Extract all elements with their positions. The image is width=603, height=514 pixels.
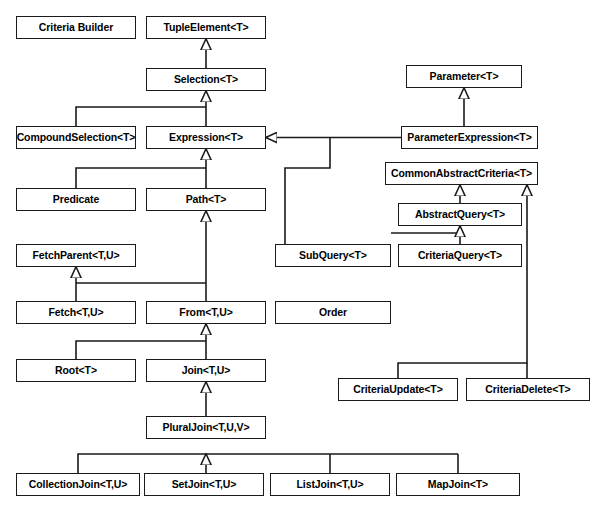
- node-plural-join[interactable]: PluralJoin<T,U,V>: [146, 416, 266, 439]
- node-set-join[interactable]: SetJoin<T,U>: [144, 473, 264, 496]
- node-common-abstract-criteria[interactable]: CommonAbstractCriteria<T>: [385, 162, 538, 185]
- node-abstract-query[interactable]: AbstractQuery<T>: [398, 203, 522, 226]
- node-parameter-expression[interactable]: ParameterExpression<T>: [401, 126, 538, 149]
- node-tuple-element[interactable]: TupleElement<T>: [146, 16, 266, 39]
- node-criteria-builder[interactable]: Criteria Builder: [16, 16, 136, 39]
- node-join[interactable]: Join<T,U>: [146, 359, 266, 382]
- node-collection-join[interactable]: CollectionJoin<T,U>: [16, 473, 140, 496]
- edge-root-from: [76, 341, 206, 359]
- node-fetch[interactable]: Fetch<T,U>: [16, 301, 136, 324]
- node-fetch-parent[interactable]: FetchParent<T,U>: [16, 244, 136, 267]
- edge-subquery-expression: [285, 138, 330, 245]
- node-parameter[interactable]: Parameter<T>: [406, 65, 522, 88]
- edge-predicate-expression: [76, 168, 206, 188]
- node-expression[interactable]: Expression<T>: [146, 126, 266, 149]
- class-diagram-canvas: Criteria Builder TupleElement<T> Selecti…: [0, 0, 603, 514]
- edge-compoundselection-selection: [76, 107, 206, 126]
- node-list-join[interactable]: ListJoin<T,U>: [270, 473, 390, 496]
- node-criteria-query[interactable]: CriteriaQuery<T>: [398, 244, 522, 267]
- node-predicate[interactable]: Predicate: [16, 188, 136, 211]
- node-compound-selection[interactable]: CompoundSelection<T>: [16, 126, 136, 149]
- node-sub-query[interactable]: SubQuery<T>: [275, 244, 391, 267]
- node-criteria-update[interactable]: CriteriaUpdate<T>: [338, 378, 458, 401]
- node-root[interactable]: Root<T>: [16, 359, 136, 382]
- node-order[interactable]: Order: [275, 301, 391, 324]
- node-from[interactable]: From<T,U>: [146, 301, 266, 324]
- edge-joins-bus: [78, 454, 458, 473]
- node-map-join[interactable]: MapJoin<T>: [396, 473, 520, 496]
- node-criteria-delete[interactable]: CriteriaDelete<T>: [466, 378, 590, 401]
- node-selection[interactable]: Selection<T>: [146, 68, 266, 91]
- node-path[interactable]: Path<T>: [146, 188, 266, 211]
